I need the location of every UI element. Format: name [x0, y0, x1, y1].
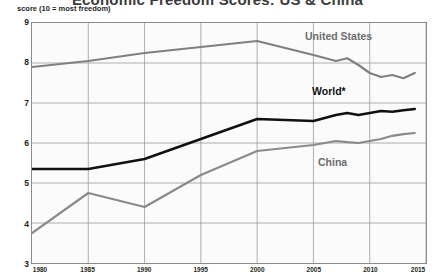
- economic-freedom-chart: Economic Freedom Scores: US & China scor…: [0, 0, 435, 279]
- x-tick-2005: 2005: [307, 266, 321, 273]
- x-axis-tick-labels: 19801985199019952000200520102015: [31, 266, 427, 278]
- x-tick-1985: 1985: [80, 266, 94, 273]
- y-tick-5: 5: [3, 178, 29, 188]
- x-tick-2015: 2015: [411, 266, 425, 273]
- y-tick-4: 4: [3, 219, 29, 229]
- y-tick-6: 6: [3, 138, 29, 148]
- y-tick-3: 3: [3, 259, 29, 269]
- y-tick-8: 8: [3, 57, 29, 67]
- y-tick-9: 9: [3, 17, 29, 27]
- plot-area: [31, 22, 427, 264]
- chart-subtitle: score (10 = most freedom): [17, 4, 111, 13]
- series-label-united-states: United States: [305, 30, 372, 42]
- x-tick-1990: 1990: [137, 266, 151, 273]
- series-label-china: China: [318, 156, 347, 168]
- series-label-world: World*: [312, 85, 346, 97]
- y-tick-7: 7: [3, 98, 29, 108]
- y-axis-tick-labels: 3456789: [0, 22, 29, 264]
- x-tick-1980: 1980: [33, 266, 47, 273]
- grid-and-series-layer: [32, 23, 426, 263]
- x-tick-1995: 1995: [193, 266, 207, 273]
- x-tick-2010: 2010: [363, 266, 377, 273]
- x-tick-2000: 2000: [250, 266, 264, 273]
